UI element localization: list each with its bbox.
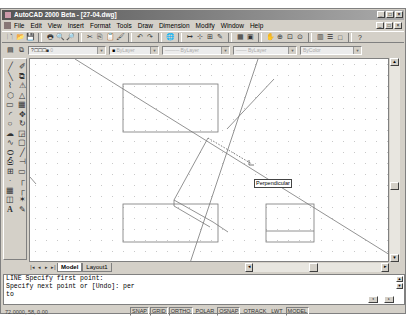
scroll-down-button[interactable]: ▼ xyxy=(390,254,399,262)
cmd-scroll-up-button[interactable]: ▲ xyxy=(396,276,403,282)
properties-icon[interactable]: ▣ xyxy=(246,33,254,41)
print-icon[interactable]: 🖶 xyxy=(46,33,54,41)
match-properties-icon[interactable]: 🖌 xyxy=(116,33,124,41)
drawing-canvas[interactable]: Perpendicular xyxy=(29,58,389,262)
lwt-toggle[interactable]: LWT xyxy=(269,307,284,316)
menu-dimension[interactable]: Dimension xyxy=(159,22,190,29)
snap-toggle[interactable]: SNAP xyxy=(130,307,149,316)
mirror-icon[interactable]: ⚠ xyxy=(17,81,27,91)
spline-icon[interactable]: ∿ xyxy=(5,138,15,148)
offset-icon[interactable]: △ xyxy=(17,91,27,101)
hatch-icon[interactable]: ▦ xyxy=(5,186,15,196)
erase-icon[interactable]: ✐ xyxy=(17,62,27,72)
break-icon[interactable]: ▭ xyxy=(17,167,27,177)
scale-icon[interactable]: ◲ xyxy=(17,129,27,139)
multiline-text-icon[interactable]: A xyxy=(5,205,15,215)
zoom-previous-icon[interactable]: ⊙ xyxy=(296,33,304,41)
layer-dropdown[interactable]: ?☐☐☐■ 0 ▼ xyxy=(28,46,106,55)
save-icon[interactable]: 💾 xyxy=(26,33,34,41)
menu-modify[interactable]: Modify xyxy=(196,22,215,29)
minimize-button[interactable]: _ xyxy=(377,11,385,18)
ortho-toggle[interactable]: ORTHO xyxy=(169,307,193,316)
osnap-icon[interactable]: ⊹ xyxy=(196,33,204,41)
cut-icon[interactable]: ✂ xyxy=(86,33,94,41)
cmd-scroll-right-button[interactable]: ▸ xyxy=(384,296,394,303)
new-icon[interactable]: 🗋 xyxy=(6,33,14,41)
ucs-icon[interactable]: ⊞ xyxy=(206,33,214,41)
prev-tab-button[interactable]: ◂ xyxy=(36,264,43,270)
internet-icon[interactable]: 🌐 xyxy=(166,33,174,41)
distance-icon[interactable]: ✎ xyxy=(216,33,224,41)
command-prompt[interactable]: to xyxy=(6,291,404,299)
zoom-realtime-icon[interactable]: ⊕ xyxy=(276,33,284,41)
rotate-icon[interactable]: ↻ xyxy=(17,119,27,129)
arc-icon[interactable]: ◜ xyxy=(5,110,15,120)
line-icon[interactable]: ╱ xyxy=(5,62,15,72)
redo-icon[interactable]: ↷ xyxy=(146,33,154,41)
cmd-scroll-left-button[interactable]: ◂ xyxy=(368,296,378,303)
make-block-icon[interactable]: ⊞ xyxy=(5,167,15,177)
array-icon[interactable]: ▦ xyxy=(17,100,27,110)
make-layer-current-icon[interactable]: ⧉ xyxy=(17,46,25,54)
zoom-window-icon[interactable]: ⊡ xyxy=(286,33,294,41)
copy-icon[interactable]: ⎘ xyxy=(96,33,104,41)
cmd-scroll-down-button[interactable]: ▼ xyxy=(396,283,403,289)
stretch-icon[interactable]: ▢ xyxy=(17,138,27,148)
menu-help[interactable]: Help xyxy=(250,22,263,29)
rectangle-icon[interactable]: ▭ xyxy=(5,100,15,110)
move-icon[interactable]: ✥ xyxy=(17,110,27,120)
vertical-scrollbar[interactable]: ▲ ▼ xyxy=(390,58,400,262)
tab-model[interactable]: Model xyxy=(57,263,82,272)
menu-format[interactable]: Format xyxy=(90,22,111,29)
grid-toggle[interactable]: GRID xyxy=(150,307,168,316)
last-tab-button[interactable]: ▸| xyxy=(50,264,57,270)
color-dropdown[interactable]: ■ ByLayer ▼ xyxy=(109,46,159,55)
undo-icon[interactable]: ↶ xyxy=(136,33,144,41)
ellipse-icon[interactable]: ⬭ xyxy=(5,148,15,158)
circle-icon[interactable]: ○ xyxy=(5,119,15,129)
doc-restore-button[interactable]: □ xyxy=(385,22,393,29)
region-icon[interactable]: ◫ xyxy=(5,195,15,205)
polyline-icon[interactable]: ⌇ xyxy=(5,81,15,91)
pan-icon[interactable]: ✋ xyxy=(266,33,274,41)
menu-tools[interactable]: Tools xyxy=(117,22,132,29)
osnap-toggle[interactable]: OSNAP xyxy=(217,307,240,316)
maximize-button[interactable]: □ xyxy=(386,11,394,18)
fillet-icon[interactable]: ┌ xyxy=(17,186,27,196)
menu-file[interactable]: File xyxy=(14,22,24,29)
scroll-right-button[interactable]: ▸ xyxy=(381,263,389,272)
horizontal-scroll-thumb[interactable] xyxy=(309,263,318,272)
aerial-view-icon[interactable]: ▦ xyxy=(236,33,244,41)
point-icon[interactable]: · xyxy=(5,176,15,186)
doc-close-button[interactable]: × xyxy=(394,22,402,29)
paste-icon[interactable]: 📋 xyxy=(106,33,114,41)
menu-draw[interactable]: Draw xyxy=(138,22,153,29)
open-icon[interactable]: 📂 xyxy=(16,33,24,41)
model-toggle[interactable]: MODEL xyxy=(286,307,310,316)
copy-object-icon[interactable]: ⧉ xyxy=(17,72,27,82)
lineweight-dropdown[interactable]: ─── ByLayer ▼ xyxy=(233,46,297,55)
polygon-icon[interactable]: ⬡ xyxy=(5,91,15,101)
polar-toggle[interactable]: POLAR xyxy=(194,307,217,316)
explode-icon[interactable]: ✶ xyxy=(17,195,27,205)
horizontal-scrollbar[interactable]: ◂ ▸ xyxy=(245,263,389,272)
construction-line-icon[interactable]: ╲ xyxy=(5,72,15,82)
scroll-left-button[interactable]: ◂ xyxy=(245,263,253,272)
doc-minimize-button[interactable]: _ xyxy=(376,22,384,29)
block-icon[interactable]: □ xyxy=(336,33,344,41)
close-button[interactable]: × xyxy=(395,11,403,18)
chamfer-icon[interactable]: ┌ xyxy=(17,176,27,186)
print-preview-icon[interactable]: 🔍 xyxy=(56,33,64,41)
layer-manager-icon[interactable]: ▤ xyxy=(6,46,14,54)
design-center-icon[interactable]: ▥ xyxy=(316,33,324,41)
plotstyle-dropdown[interactable]: ByColor ▼ xyxy=(300,46,362,55)
otrack-toggle[interactable]: OTRACK xyxy=(241,307,268,316)
menu-view[interactable]: View xyxy=(48,22,62,29)
menu-edit[interactable]: Edit xyxy=(30,22,41,29)
revision-cloud-icon[interactable]: ☁ xyxy=(5,129,15,139)
find-icon[interactable]: 🔎 xyxy=(66,33,74,41)
vertical-scroll-thumb[interactable] xyxy=(390,182,399,190)
menu-insert[interactable]: Insert xyxy=(68,22,84,29)
snap-from-icon[interactable]: ↦ xyxy=(186,33,194,41)
help-icon[interactable]: ? xyxy=(356,33,364,41)
